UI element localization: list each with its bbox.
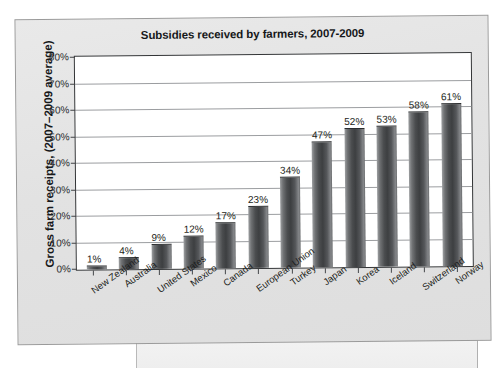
bar-slot: 53% [370, 54, 404, 267]
y-tick-label: 80% [49, 51, 69, 62]
bar-value-label: 12% [184, 224, 204, 235]
x-tick-mark [391, 268, 392, 273]
y-tick-label: 30% [50, 184, 70, 195]
x-tick-mark [159, 270, 160, 275]
bar-series: 1%4%9%12%17%23%34%47%52%53%58%61% [75, 53, 473, 270]
x-tick-mark [325, 268, 326, 273]
x-tick-mark [358, 268, 359, 273]
chart-panel: Subsidies received by farmers, 2007-2009… [14, 15, 491, 346]
y-tick-label: 40% [50, 157, 70, 168]
bar[interactable]: 23% [248, 206, 269, 268]
x-axis-labels: New ZealandAustraliaUnited StatesMexicoC… [76, 273, 475, 343]
y-tick-label: 0% [56, 263, 71, 274]
bar-slot: 4% [111, 56, 145, 269]
x-tick-mark [225, 269, 226, 274]
bar-value-label: 61% [441, 91, 461, 102]
bar-value-label: 1% [87, 254, 102, 265]
chart-title: Subsidies received by farmers, 2007-2009 [16, 26, 490, 43]
bar-slot: 58% [402, 53, 436, 266]
bar-slot: 12% [176, 55, 210, 268]
bar-value-label: 23% [248, 194, 268, 205]
bar-slot: 34% [273, 54, 307, 267]
x-tick-mark [424, 267, 425, 272]
bar-slot: 17% [208, 55, 242, 268]
bar-slot: 23% [240, 55, 274, 268]
lower-page-panel [136, 340, 478, 368]
bar-value-label: 17% [216, 210, 236, 221]
screenshot-page: Subsidies received by farmers, 2007-2009… [0, 0, 504, 368]
bar[interactable]: 17% [216, 222, 236, 268]
bar-value-label: 9% [151, 232, 166, 243]
bar[interactable]: 58% [409, 112, 430, 267]
bar-value-label: 52% [344, 116, 364, 127]
plot-area: 0%10%20%30%40%50%60%70%80% 1%4%9%12%17%2… [74, 52, 474, 271]
bar-slot: 61% [434, 53, 468, 266]
y-tick-label: 70% [49, 78, 69, 89]
y-tick-label: 20% [50, 210, 70, 221]
bar-slot: 1% [79, 56, 113, 269]
bar-slot: 9% [143, 56, 177, 269]
y-axis-title: Gross farm receipts, (2007–2009 average) [42, 38, 56, 270]
bar-value-label: 34% [280, 164, 300, 175]
bar[interactable]: 47% [312, 142, 333, 268]
x-tick-mark [258, 269, 259, 274]
bar-value-label: 58% [409, 100, 429, 111]
y-tick-label: 60% [49, 104, 69, 115]
bar[interactable]: 61% [441, 103, 463, 266]
y-tick-label: 50% [50, 131, 70, 142]
x-tick-mark [92, 271, 93, 276]
bar-slot: 52% [337, 54, 371, 267]
bar[interactable]: 1% [87, 266, 107, 270]
bar-value-label: 47% [312, 130, 332, 141]
bar-value-label: 53% [376, 113, 396, 124]
bar-slot: 47% [305, 54, 339, 267]
y-tick-label: 10% [51, 237, 71, 248]
bar[interactable]: 53% [377, 125, 398, 267]
bar[interactable]: 52% [344, 128, 365, 267]
